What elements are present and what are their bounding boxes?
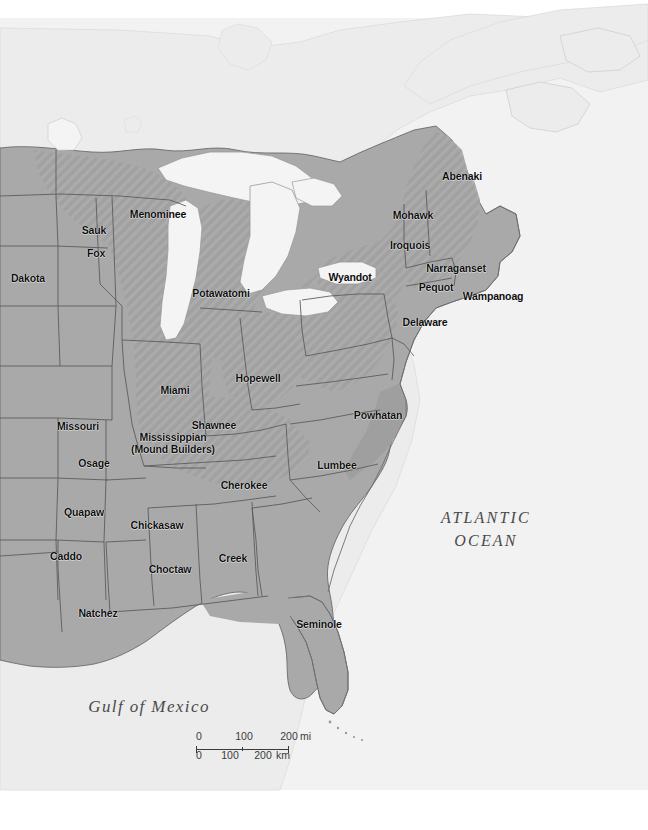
map-figure: AbenakiMohawkIroquoisWyandotNarragansetP… [0,0,648,830]
scale-row-miles: 0 100 200 mi [196,730,346,746]
scale-mi-tick-200: 200 [280,730,298,742]
scale-row-km: 0 100 200 km [196,749,346,765]
page-bottom-margin [0,790,648,830]
scale-km-tick-100: 100 [221,749,239,761]
map-canvas [0,0,648,830]
scale-km-unit: km [276,749,290,761]
scale-mi-unit: mi [300,730,311,742]
scale-mi-tick-100: 100 [235,730,253,742]
scale-km-tick-0: 0 [196,749,202,761]
scale-bar: 0 100 200 mi 0 100 200 km [196,730,346,774]
scale-km-tick-200: 200 [254,749,272,761]
scale-mi-tick-0: 0 [196,730,202,742]
lake-ontario [318,262,376,284]
